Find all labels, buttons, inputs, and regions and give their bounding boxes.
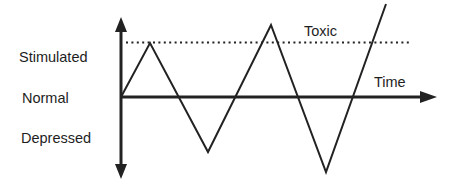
drug-response-diagram: Stimulated Normal Depressed Toxic Time [0,0,457,188]
depressed-label: Depressed [21,131,91,146]
down-arrow-icon [115,164,127,179]
right-arrow-icon [420,91,437,103]
normal-label: Normal [22,91,69,106]
toxic-label: Toxic [304,24,337,39]
up-arrow-icon [115,17,127,32]
response-line [121,4,386,172]
time-axis-label: Time [374,75,406,90]
stimulated-label: Stimulated [19,50,88,65]
time-axis [121,91,437,103]
